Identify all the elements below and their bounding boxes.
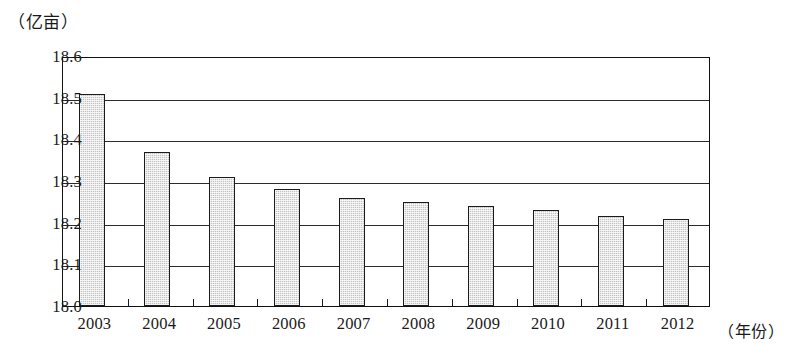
x-axis-tick-label: 2008 [386,316,450,333]
x-axis-unit-label: （年份） [718,318,784,342]
x-axis-tick-mark [452,299,453,306]
gridline [63,100,709,101]
x-axis-tick-mark [581,299,582,306]
x-axis-tick-label: 2009 [451,316,515,333]
x-axis-tick-label: 2007 [322,316,386,333]
x-axis-tick-mark [646,299,647,306]
x-axis-tick-label: 2010 [516,316,580,333]
x-axis-tick-mark [128,299,129,306]
bar [663,219,689,307]
bar [598,216,624,306]
x-axis-tick-label: 2012 [646,316,710,333]
bar [79,94,105,307]
x-axis-tick-label: 2005 [192,316,256,333]
x-axis-tick-mark [387,299,388,306]
plot-area [62,57,710,307]
bar [274,189,300,306]
gridline [63,141,709,142]
x-axis-tick-label: 2004 [127,316,191,333]
bar [209,177,235,306]
x-axis-tick-label: 2006 [257,316,321,333]
bar [144,152,170,306]
bar [339,198,365,306]
x-axis-tick-mark [193,299,194,306]
x-axis-tick-mark [322,299,323,306]
bar [468,206,494,306]
bar [533,210,559,306]
x-axis-tick-mark [257,299,258,306]
y-axis-unit-label: （亿亩） [8,8,78,33]
x-axis-tick-label: 2011 [581,316,645,333]
bar [403,202,429,306]
bar-chart: （亿亩） （年份） 18.618.518.418.318.218.118.0 2… [0,0,794,345]
x-axis-tick-mark [517,299,518,306]
x-axis-tick-label: 2003 [62,316,126,333]
